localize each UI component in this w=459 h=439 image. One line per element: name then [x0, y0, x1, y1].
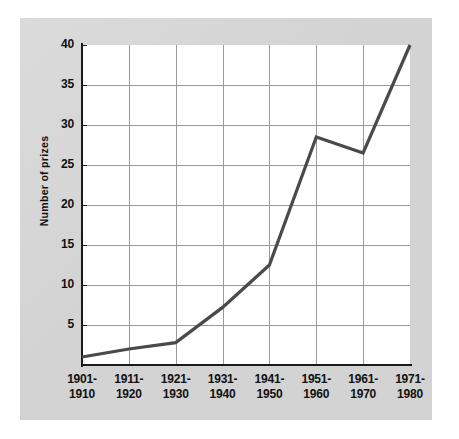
series-line-chart: [0, 0, 459, 439]
chart-figure: 403530252015105 Number of prizes 1901-19…: [0, 0, 459, 439]
prizes-line: [82, 45, 410, 357]
